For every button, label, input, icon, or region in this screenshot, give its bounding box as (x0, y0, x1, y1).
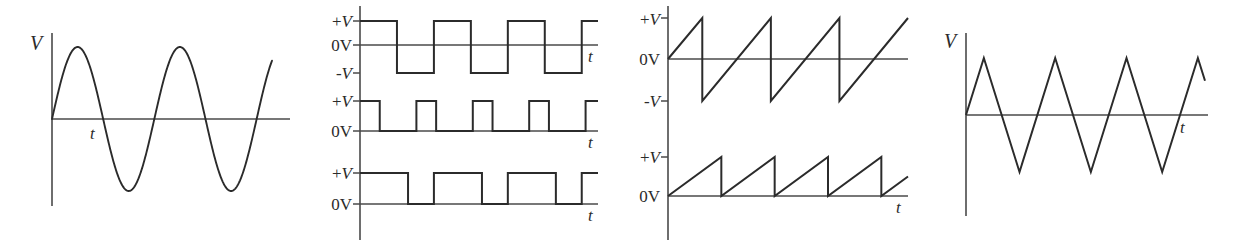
square-level-labels: +V0V-Vt+V0Vt+V0Vt (331, 12, 594, 225)
x-axis-label: t (588, 206, 594, 225)
y-axis-label: V (944, 30, 959, 52)
sawtooth-wave-panel: +V0V-V+V0Vt (610, 0, 920, 246)
x-axis-label: t (90, 124, 96, 143)
x-axis-label: t (1180, 118, 1186, 137)
sine-wave-panel: V t (0, 0, 310, 246)
square-wave-svg: +V0V-Vt+V0Vt+V0Vt (310, 0, 610, 246)
sawtooth-waveform-paths (668, 18, 908, 196)
sawtooth-axes (668, 6, 908, 240)
square-waveform-paths (360, 21, 598, 204)
level-label: 0V (639, 187, 661, 206)
waveform-figure: V t +V0V-Vt+V0Vt+V0Vt +V0V-V+V0Vt V (0, 0, 1238, 246)
level-label: 0V (331, 195, 353, 214)
level-label: +V (332, 164, 355, 183)
triangle-axes (966, 33, 1208, 216)
level-label: +V (640, 148, 663, 167)
unipolar-sawtooth-wave-path (668, 157, 908, 196)
triangle-wave-svg: V t (920, 0, 1238, 246)
level-label: 0V (639, 50, 661, 69)
triangle-wave-panel: V t (920, 0, 1238, 246)
square-tick-marks (353, 21, 360, 204)
sine-wave-svg: V t (0, 0, 310, 246)
level-label: 0V (331, 36, 353, 55)
x-axis-label: t (588, 47, 594, 66)
x-axis-label: t (896, 198, 902, 217)
x-axis-label: t (588, 133, 594, 152)
wide-pulse-train-path (360, 173, 598, 204)
level-label: +V (332, 92, 355, 111)
bipolar-square-wave-path (360, 21, 598, 73)
level-label: -V (644, 92, 663, 111)
level-label: 0V (331, 122, 353, 141)
level-label: +V (332, 12, 355, 31)
square-wave-panel: +V0V-Vt+V0Vt+V0Vt (310, 0, 610, 246)
level-label: -V (336, 64, 355, 83)
sawtooth-wave-svg: +V0V-V+V0Vt (610, 0, 920, 246)
sawtooth-tick-marks (661, 18, 668, 157)
level-label: +V (640, 10, 663, 29)
narrow-pulse-train-path (360, 101, 598, 131)
y-axis-label: V (30, 32, 45, 54)
